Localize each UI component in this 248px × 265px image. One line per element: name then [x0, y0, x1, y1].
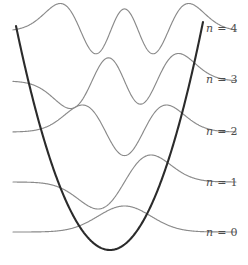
level-label-n0-eq: =	[213, 226, 230, 239]
level-label-n4: n = 4	[206, 22, 238, 35]
wavefunction-curves	[13, 4, 236, 233]
level-label-n0-value: 0	[231, 226, 238, 239]
wavefunction-curve-n1	[13, 155, 236, 209]
level-label-n3: n = 3	[206, 73, 238, 86]
level-label-n2: n = 2	[206, 125, 238, 138]
level-label-n4-eq: =	[213, 22, 230, 35]
level-label-n1-eq: =	[213, 176, 230, 189]
level-label-n3-eq: =	[213, 73, 230, 86]
level-label-n4-value: 4	[231, 22, 238, 35]
harmonic-oscillator-figure: n = 4 n = 3 n = 2 n = 1 n = 0	[0, 0, 248, 265]
level-label-n1: n = 1	[206, 176, 238, 189]
level-label-n1-value: 1	[231, 176, 238, 189]
wavefunction-curve-n3	[13, 54, 236, 109]
level-label-n2-eq: =	[213, 125, 230, 138]
level-label-n2-value: 2	[231, 125, 238, 138]
level-label-n0: n = 0	[206, 226, 238, 239]
level-label-n3-value: 3	[231, 73, 238, 86]
potential-parabola	[16, 22, 203, 250]
wavefunction-curve-n0	[13, 206, 236, 232]
